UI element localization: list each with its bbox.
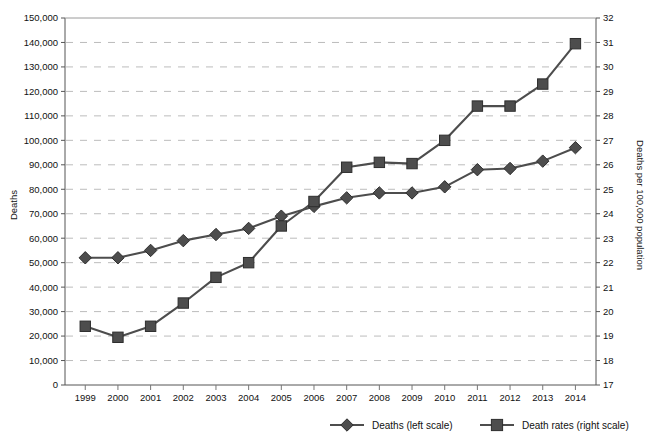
x-axis-tick-label: 2006 xyxy=(303,392,324,403)
square-marker-icon xyxy=(243,257,253,267)
diamond-marker-icon xyxy=(341,419,353,431)
legend-entry-label: Death rates (right scale) xyxy=(522,420,629,431)
y-right-tick-label: 21 xyxy=(603,282,614,293)
x-axis-tick-label: 2003 xyxy=(205,392,226,403)
y-left-tick-label: 120,000 xyxy=(24,86,58,97)
y-left-tick-label: 0 xyxy=(53,379,58,390)
x-axis-tick-label: 2011 xyxy=(467,392,487,403)
square-marker-icon xyxy=(505,101,515,111)
square-marker-icon xyxy=(113,332,123,342)
y-left-tick-label: 10,000 xyxy=(29,355,58,366)
y-right-tick-label: 22 xyxy=(603,257,614,268)
y-right-tick-label: 29 xyxy=(603,86,614,97)
diamond-marker-icon xyxy=(569,141,581,153)
chart-figure: 010,00020,00030,00040,00050,00060,00070,… xyxy=(0,0,649,440)
y-right-tick-label: 31 xyxy=(603,37,614,48)
y-left-tick-label: 30,000 xyxy=(29,306,58,317)
square-marker-icon xyxy=(374,157,384,167)
y-left-tick-label: 90,000 xyxy=(29,159,58,170)
square-marker-icon xyxy=(145,321,155,331)
y-left-tick-label: 40,000 xyxy=(29,282,58,293)
x-axis-tick-label: 2008 xyxy=(369,392,390,403)
y-left-tick-label: 80,000 xyxy=(29,184,58,195)
y-right-tick-label: 25 xyxy=(603,184,614,195)
line-chart-canvas: 010,00020,00030,00040,00050,00060,00070,… xyxy=(0,0,649,440)
diamond-marker-icon xyxy=(210,228,222,240)
square-marker-icon xyxy=(407,158,417,168)
cut-off-title xyxy=(120,0,540,6)
y-right-tick-label: 23 xyxy=(603,233,614,244)
y-left-tick-label: 140,000 xyxy=(24,37,58,48)
y-right-tick-label: 28 xyxy=(603,110,614,121)
square-marker-icon xyxy=(178,298,188,308)
x-axis-tick-label: 2002 xyxy=(173,392,194,403)
square-marker-icon xyxy=(80,321,90,331)
square-marker-icon xyxy=(538,79,548,89)
diamond-marker-icon xyxy=(504,162,516,174)
x-axis-tick-label: 2009 xyxy=(401,392,422,403)
diamond-marker-icon xyxy=(340,192,352,204)
series-line xyxy=(85,44,575,338)
y-axis-left-ticks: 010,00020,00030,00040,00050,00060,00070,… xyxy=(24,12,65,390)
x-axis-ticks: 1999200020012002200320042005200620072008… xyxy=(75,385,586,403)
y-right-tick-label: 18 xyxy=(603,355,614,366)
square-marker-icon xyxy=(276,221,286,231)
diamond-marker-icon xyxy=(144,244,156,256)
diamond-marker-icon xyxy=(406,187,418,199)
y-left-tick-label: 20,000 xyxy=(29,330,58,341)
y-left-tick-label: 70,000 xyxy=(29,208,58,219)
y-axis-right-ticks: 17181920212223242526272829303132 xyxy=(596,12,614,390)
diamond-marker-icon xyxy=(373,187,385,199)
diamond-marker-icon xyxy=(79,252,91,264)
y-axis-left-title: Deaths xyxy=(8,190,19,220)
y-right-tick-label: 20 xyxy=(603,306,614,317)
y-right-tick-label: 27 xyxy=(603,135,614,146)
y-left-tick-label: 130,000 xyxy=(24,61,58,72)
x-axis-tick-label: 2010 xyxy=(434,392,455,403)
square-marker-icon xyxy=(440,135,450,145)
square-marker-icon xyxy=(472,101,482,111)
x-axis-tick-label: 2013 xyxy=(532,392,553,403)
y-right-tick-label: 26 xyxy=(603,159,614,170)
x-axis-tick-label: 2001 xyxy=(140,392,161,403)
x-axis-tick-label: 2000 xyxy=(107,392,128,403)
y-left-tick-label: 60,000 xyxy=(29,233,58,244)
y-left-tick-label: 110,000 xyxy=(24,110,58,121)
data-series-layer xyxy=(79,38,582,342)
diamond-marker-icon xyxy=(471,163,483,175)
y-right-tick-label: 17 xyxy=(603,379,614,390)
series-line xyxy=(85,148,575,258)
square-marker-icon xyxy=(491,419,502,430)
y-right-tick-label: 30 xyxy=(603,61,614,72)
y-left-tick-label: 150,000 xyxy=(24,12,58,23)
y-left-tick-label: 100,000 xyxy=(24,135,58,146)
diamond-marker-icon xyxy=(439,181,451,193)
square-marker-icon xyxy=(570,38,580,48)
y-axis-right-title: Deaths per 100,000 population xyxy=(635,140,646,270)
diamond-marker-icon xyxy=(242,222,254,234)
square-marker-icon xyxy=(341,162,351,172)
x-axis-tick-label: 2012 xyxy=(499,392,520,403)
square-marker-icon xyxy=(309,196,319,206)
x-axis-tick-label: 2014 xyxy=(565,392,586,403)
legend-entry-label: Deaths (left scale) xyxy=(372,420,453,431)
x-axis-tick-label: 1999 xyxy=(75,392,96,403)
y-right-tick-label: 24 xyxy=(603,208,614,219)
diamond-marker-icon xyxy=(177,234,189,246)
x-axis-tick-label: 2007 xyxy=(336,392,357,403)
square-marker-icon xyxy=(211,272,221,282)
diamond-marker-icon xyxy=(537,155,549,167)
chart-legend: Deaths (left scale)Death rates (right sc… xyxy=(330,419,629,431)
y-right-tick-label: 19 xyxy=(603,330,614,341)
diamond-marker-icon xyxy=(112,252,124,264)
x-axis-tick-label: 2005 xyxy=(271,392,292,403)
x-axis-tick-label: 2004 xyxy=(238,392,259,403)
y-right-tick-label: 32 xyxy=(603,12,614,23)
y-left-tick-label: 50,000 xyxy=(29,257,58,268)
